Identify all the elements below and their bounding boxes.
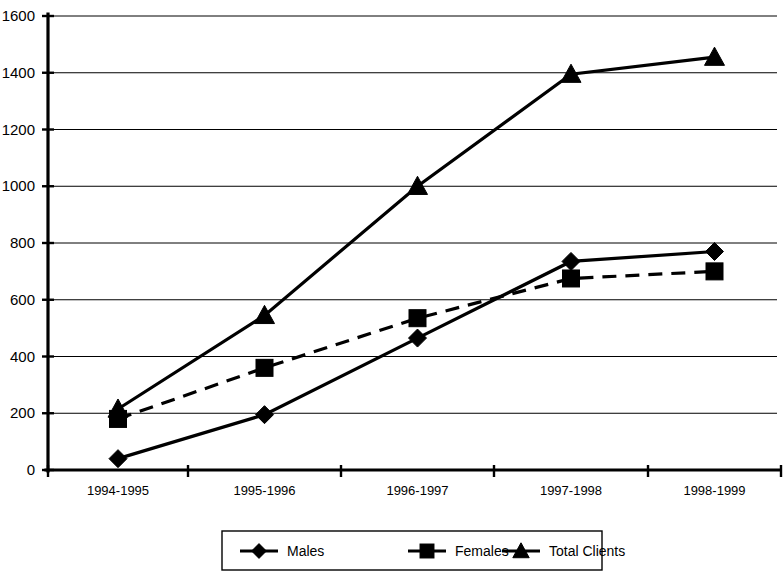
data-point-females bbox=[706, 263, 723, 280]
data-point-females bbox=[256, 359, 273, 376]
legend-marker-square bbox=[420, 544, 434, 558]
gridlines-group bbox=[48, 16, 777, 413]
data-point-males bbox=[706, 243, 724, 261]
legend-items-group: MalesFemalesTotal Clients bbox=[240, 543, 625, 559]
y-axis-tick-label: 1200 bbox=[2, 121, 35, 138]
data-point-females bbox=[563, 270, 580, 287]
y-axis-tick-label: 600 bbox=[10, 291, 35, 308]
y-axis-tick-label: 1400 bbox=[2, 64, 35, 81]
x-axis-tick-labels: 1994-19951995-19961996-19971997-19981998… bbox=[87, 483, 746, 498]
data-point-total-clients bbox=[705, 47, 725, 65]
legend-label-total-clients: Total Clients bbox=[549, 543, 625, 559]
data-point-total-clients bbox=[408, 176, 428, 194]
series-lines-group bbox=[118, 57, 715, 459]
data-point-males bbox=[562, 252, 580, 270]
legend: MalesFemalesTotal Clients bbox=[222, 531, 625, 570]
data-point-males bbox=[409, 329, 427, 347]
y-axis-tick-labels: 16001400120010008006004002000 bbox=[2, 7, 35, 478]
x-axis-tick-label: 1996-1997 bbox=[386, 483, 448, 498]
y-axis-tick-label: 1600 bbox=[2, 7, 35, 24]
y-axis-tick-label: 800 bbox=[10, 234, 35, 251]
legend-label-males: Males bbox=[287, 543, 324, 559]
data-point-males bbox=[256, 406, 274, 424]
y-axis-tick-label: 0 bbox=[27, 461, 35, 478]
x-axis-tick-label: 1998-1999 bbox=[683, 483, 745, 498]
y-axis-tick-label: 400 bbox=[10, 348, 35, 365]
x-axis-tick-label: 1997-1998 bbox=[540, 483, 602, 498]
legend-label-females: Females bbox=[455, 543, 509, 559]
data-point-males bbox=[109, 450, 127, 468]
x-axis-tick-label: 1994-1995 bbox=[87, 483, 149, 498]
data-point-females bbox=[409, 310, 426, 327]
data-point-total-clients bbox=[108, 399, 128, 417]
y-axis-tick-label: 200 bbox=[10, 404, 35, 421]
chart-canvas: 16001400120010008006004002000 1994-19951… bbox=[0, 0, 783, 580]
x-axis-tick-label: 1995-1996 bbox=[233, 483, 295, 498]
line-chart: 16001400120010008006004002000 1994-19951… bbox=[0, 0, 783, 580]
series-line-males bbox=[118, 252, 715, 459]
y-axis-tick-label: 1000 bbox=[2, 177, 35, 194]
